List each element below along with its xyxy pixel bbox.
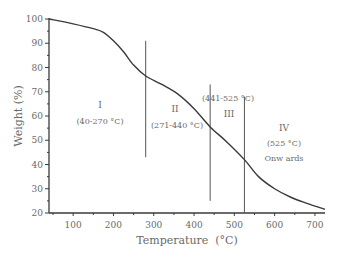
x-tick-label: 200 xyxy=(105,220,122,230)
y-tick-label: 70 xyxy=(32,87,44,97)
x-tick-label: 600 xyxy=(266,220,283,230)
y-tick-label: 20 xyxy=(32,208,44,218)
stage-1-label: I xyxy=(98,100,102,110)
stage-4-label: IV xyxy=(279,123,290,133)
stage-1-range: (40-270 °C) xyxy=(76,117,123,126)
stage-2-label: II xyxy=(171,104,179,114)
y-tick-label: 80 xyxy=(32,63,44,73)
stage-4-onwards: Onw ards xyxy=(265,154,304,163)
y-tick-label: 30 xyxy=(32,184,44,194)
x-tick-label: 300 xyxy=(145,220,162,230)
x-tick-label: 100 xyxy=(65,220,82,230)
x-tick-label: 500 xyxy=(226,220,243,230)
y-tick-label: 50 xyxy=(32,135,44,145)
x-axis-label: Temperature (°C) xyxy=(136,234,238,247)
y-tick-label: 40 xyxy=(32,160,44,170)
y-tick-label: 60 xyxy=(32,111,44,121)
x-tick-label: 700 xyxy=(306,220,323,230)
x-tick-label: 400 xyxy=(185,220,202,230)
stage-2-range: (271-440 °C) xyxy=(151,121,203,130)
stage-4-range: (525 °C) xyxy=(267,139,301,148)
stage-3-label: III xyxy=(224,109,235,119)
tga-chart: 1002003004005006007002030405060708090100… xyxy=(0,0,342,258)
weight-curve xyxy=(49,19,325,209)
y-tick-label: 100 xyxy=(26,14,43,24)
y-axis-label: Weight (%) xyxy=(12,85,25,147)
stage-3-range: (441-525 °C) xyxy=(202,94,254,103)
y-tick-label: 90 xyxy=(32,38,44,48)
